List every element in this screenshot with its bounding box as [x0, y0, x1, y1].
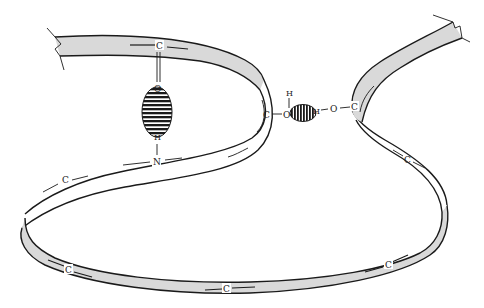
atom-o-vertical: O [154, 84, 161, 94]
atom-c-bottom-right: C [385, 260, 392, 270]
hbond-hatch-vertical [142, 87, 172, 137]
atom-c-top: C [156, 41, 163, 51]
atom-h-vertical: H [154, 133, 161, 142]
atom-c-left-front: C [65, 265, 72, 275]
atom-c-bottom: C [223, 284, 230, 294]
ribbon-top-left-strand [47, 28, 264, 90]
atom-o-right: O [330, 104, 337, 114]
atom-h-right: H [313, 107, 320, 116]
atom-h-left: H [286, 89, 293, 98]
atom-labels: C O H N C O H H O C C C C C C [62, 40, 411, 294]
ribbon-top-right-strand [352, 15, 470, 122]
atom-c-left-back: C [62, 175, 69, 185]
atom-n-mid: N [153, 157, 161, 167]
atom-c-mid: C [263, 110, 270, 120]
protein-ribbon-diagram: C O H N C O H H O C C C C C C [0, 0, 484, 308]
atom-c-right: C [351, 102, 358, 112]
atom-o-left: O [283, 110, 290, 120]
ribbon-bottom-strand [21, 205, 448, 293]
ribbon-right-back-strand [352, 110, 447, 212]
atom-c-right-back: C [404, 155, 411, 165]
